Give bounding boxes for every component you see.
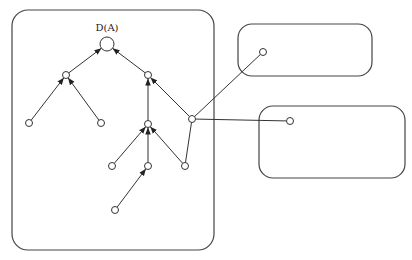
node-hub [189,116,196,123]
edge-l3b-l2a [68,78,99,120]
edge-l4c-hub [186,122,192,162]
node-l4c [182,163,189,170]
node-l4a [109,163,116,170]
edge-l4c-l3c [150,127,182,164]
edge-hub-ext2 [195,119,286,121]
container-boxes [12,10,405,250]
root-label: D(A) [95,22,118,33]
tree-diagram: D(A) [0,0,412,260]
node-root [100,37,114,51]
edge-l4a-l3c [114,127,145,164]
node-l2b [145,72,152,79]
container-bottom-right [259,106,405,178]
node-ext2 [287,118,294,125]
edge-l2b-root [113,48,146,73]
node-l3b [98,120,105,127]
edge-l2a-root [69,48,102,73]
node-l2a [63,72,70,79]
node-l3c [145,121,152,128]
edges [31,48,286,207]
node-l4b [145,163,152,170]
node-ext1 [260,49,267,56]
node-l5a [112,207,119,214]
edge-hub-ext1 [195,54,261,116]
edge-l5a-l4b [117,169,146,207]
container-top-right [238,24,372,76]
edge-l3a-l2a [31,78,64,120]
nodes [26,37,294,214]
node-l3a [26,120,33,127]
edge-hub-l2b [150,77,189,116]
